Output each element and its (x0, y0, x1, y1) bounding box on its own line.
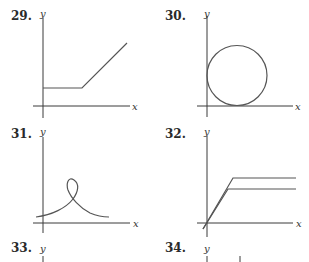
y-axis-label: y (39, 243, 46, 254)
piecewise-line (43, 43, 127, 88)
y-axis-label: y (203, 8, 210, 19)
graph-33: y (39, 243, 46, 262)
loop-curve (36, 179, 109, 217)
graph-30: y x (197, 8, 301, 117)
graphs-canvas: y x y x y x y x (0, 0, 309, 262)
graph-29: y x (33, 8, 138, 118)
x-axis-label: x (295, 101, 301, 112)
x-axis-label: x (296, 218, 302, 229)
graph-32: y x (197, 126, 302, 237)
y-axis-label: y (203, 243, 210, 254)
textbook-page: 29. 30. 31. 32. 33. 34. y x y x y x (0, 0, 309, 262)
graph-31: y x (33, 126, 139, 233)
y-axis-label: y (39, 126, 46, 137)
upper-ramp-line (203, 178, 296, 229)
y-axis-label: y (203, 126, 210, 137)
y-axis-label: y (39, 8, 46, 19)
x-axis-label: x (133, 218, 139, 229)
graph-34: y (203, 243, 240, 262)
circle-curve (207, 46, 267, 106)
x-axis-label: x (132, 101, 138, 112)
